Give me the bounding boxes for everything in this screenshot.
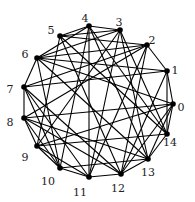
node-11 <box>86 174 92 180</box>
graph-edges <box>24 26 173 177</box>
edge-2-5 <box>60 36 147 45</box>
node-label-1: 1 <box>172 64 179 77</box>
edge-1-2 <box>147 45 167 71</box>
node-12 <box>118 171 124 177</box>
node-10 <box>57 165 63 171</box>
node-label-2: 2 <box>149 34 156 47</box>
node-label-12: 12 <box>111 182 125 195</box>
edge-10-11 <box>60 168 89 177</box>
node-label-6: 6 <box>22 48 29 61</box>
graph-diagram: 01234567891011121314 <box>0 0 195 202</box>
node-label-10: 10 <box>41 175 55 188</box>
node-label-8: 8 <box>7 116 14 129</box>
node-label-11: 11 <box>73 186 87 199</box>
edge-11-12 <box>89 174 121 177</box>
node-label-14: 14 <box>163 136 177 149</box>
node-label-4: 4 <box>82 12 89 25</box>
node-8 <box>21 115 27 121</box>
edge-6-13 <box>37 58 148 159</box>
edge-1-7 <box>24 71 167 87</box>
edge-1-12 <box>121 71 167 174</box>
node-label-13: 13 <box>141 166 155 179</box>
node-label-5: 5 <box>48 24 55 37</box>
node-label-3: 3 <box>116 16 123 29</box>
node-13 <box>145 156 151 162</box>
node-7 <box>21 84 27 90</box>
node-5 <box>57 33 63 39</box>
edge-7-10 <box>24 87 60 168</box>
edge-7-12 <box>24 87 121 174</box>
node-6 <box>34 55 40 61</box>
node-0 <box>170 101 176 107</box>
node-label-7: 7 <box>7 83 14 96</box>
node-9 <box>34 143 40 149</box>
node-1 <box>164 68 170 74</box>
node-label-9: 9 <box>22 151 29 164</box>
node-label-0: 0 <box>178 101 185 114</box>
edge-2-6 <box>37 45 147 58</box>
